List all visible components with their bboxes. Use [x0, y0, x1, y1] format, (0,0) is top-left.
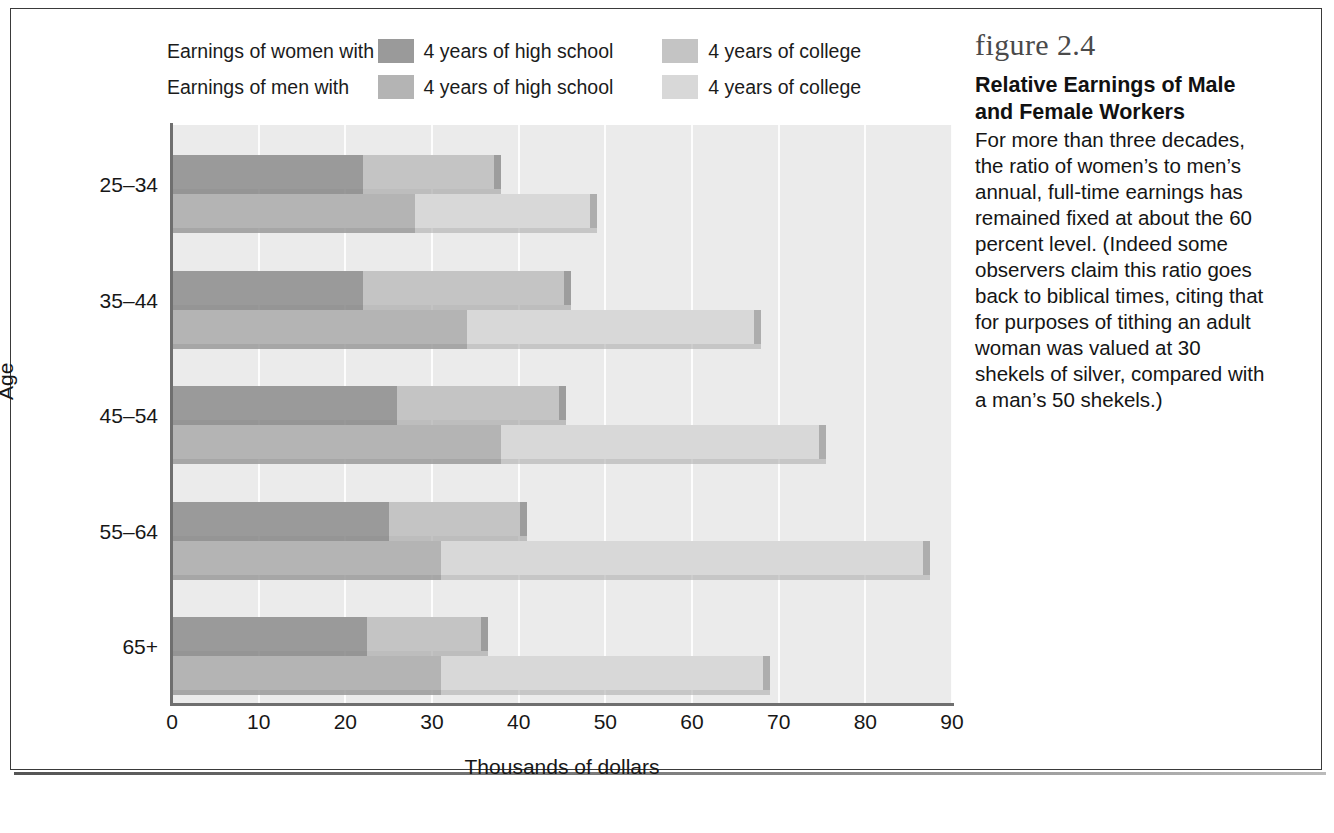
y-tick-label-2: 45–54: [100, 404, 158, 428]
bar-segment-highschool: [172, 425, 501, 459]
legend-row-label-women: Earnings of women with: [167, 40, 378, 63]
bar-group: [172, 125, 952, 241]
bar-shadow: [172, 228, 415, 233]
x-tick-label-90: 90: [930, 710, 974, 734]
plot-area: [172, 125, 952, 703]
y-tick-label-1: 35–44: [100, 289, 158, 313]
y-axis-tick-labels: 25–3435–4445–5455–6465+: [12, 125, 158, 703]
bar-group: [172, 241, 952, 357]
bar-men: [172, 541, 930, 575]
x-tick-label-70: 70: [757, 710, 801, 734]
figure-number: figure 2.4: [975, 28, 1275, 62]
bar-segment-highschool: [172, 656, 441, 690]
legend-text-women-college: 4 years of college: [708, 40, 947, 63]
legend-swatch-men-college: [662, 75, 698, 99]
x-tick-label-20: 20: [323, 710, 367, 734]
x-axis-title: Thousands of dollars: [172, 755, 952, 779]
bar-group: [172, 587, 952, 703]
x-tick-label-40: 40: [497, 710, 541, 734]
y-axis-line: [170, 123, 173, 705]
bar-segment-highschool: [172, 155, 363, 189]
bar-segment-highschool: [172, 310, 467, 344]
bar-shadow: [172, 459, 501, 464]
bar-women: [172, 386, 566, 420]
legend-text-men-college: 4 years of college: [708, 76, 947, 99]
figure-title: Relative Earnings of Male and Female Wor…: [975, 72, 1275, 126]
bar-end-cap: [520, 502, 527, 536]
bar-end-cap: [923, 541, 930, 575]
bar-segment-highschool: [172, 271, 363, 305]
legend-text-men-highschool: 4 years of high school: [424, 76, 663, 99]
y-tick-label-4: 65+: [122, 635, 158, 659]
plot-wrapper: [172, 125, 952, 703]
caption-column: figure 2.4 Relative Earnings of Male and…: [975, 28, 1275, 414]
bar-segment-highschool: [172, 194, 415, 228]
y-tick-label-3: 55–64: [100, 520, 158, 544]
bar-end-cap: [763, 656, 770, 690]
y-tick-label-0: 25–34: [100, 173, 158, 197]
bar-group: [172, 356, 952, 472]
bar-men: [172, 425, 826, 459]
bar-end-cap: [754, 310, 761, 344]
legend-text-women-highschool: 4 years of high school: [424, 40, 663, 63]
x-tick-label-80: 80: [843, 710, 887, 734]
bar-end-cap: [559, 386, 566, 420]
bar-women: [172, 502, 527, 536]
bar-end-cap: [819, 425, 826, 459]
x-tick-label-60: 60: [670, 710, 714, 734]
bar-segment-highschool: [172, 541, 441, 575]
bar-end-cap: [481, 617, 488, 651]
chart-legend: Earnings of women with 4 years of high s…: [167, 34, 947, 108]
bar-men: [172, 656, 770, 690]
bar-women: [172, 155, 501, 189]
bar-segment-highschool: [172, 386, 397, 420]
x-tick-label-10: 10: [237, 710, 281, 734]
x-tick-label-30: 30: [410, 710, 454, 734]
legend-swatch-women-highschool: [378, 39, 414, 63]
bar-end-cap: [564, 271, 571, 305]
bar-group: [172, 472, 952, 588]
bar-shadow: [172, 344, 467, 349]
x-tick-label-50: 50: [583, 710, 627, 734]
bar-segment-highschool: [172, 502, 389, 536]
x-axis-line: [170, 703, 954, 706]
bar-segment-highschool: [172, 617, 367, 651]
figure-caption-text: For more than three decades, the ratio o…: [975, 127, 1275, 413]
legend-row-women: Earnings of women with 4 years of high s…: [167, 36, 947, 66]
legend-row-label-men: Earnings of men with: [167, 76, 378, 99]
legend-row-men: Earnings of men with 4 years of high sch…: [167, 72, 947, 102]
legend-swatch-men-highschool: [378, 75, 414, 99]
chart-column: Earnings of women with 4 years of high s…: [12, 10, 952, 755]
bar-shadow: [172, 690, 441, 695]
x-tick-label-0: 0: [150, 710, 194, 734]
bar-shadow: [172, 575, 441, 580]
legend-swatch-women-college: [662, 39, 698, 63]
bar-women: [172, 617, 488, 651]
bar-end-cap: [494, 155, 501, 189]
bar-men: [172, 310, 761, 344]
bar-end-cap: [590, 194, 597, 228]
bar-women: [172, 271, 571, 305]
bar-men: [172, 194, 597, 228]
y-axis-title: Age: [0, 363, 18, 400]
